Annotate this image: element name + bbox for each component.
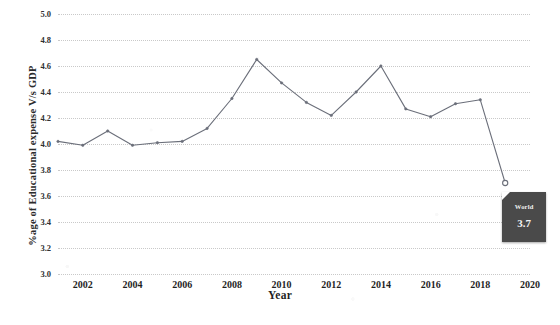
data-point[interactable]: [355, 91, 357, 93]
data-point[interactable]: [107, 130, 109, 132]
data-point[interactable]: [57, 140, 59, 142]
data-point[interactable]: [405, 108, 407, 110]
plot-area: 3.03.23.43.63.84.04.24.44.64.85.0 200220…: [58, 14, 530, 274]
y-tick-label: 4.4: [40, 87, 51, 97]
data-point[interactable]: [181, 140, 183, 142]
y-tick-label: 4.8: [40, 35, 51, 45]
data-point[interactable]: [131, 144, 133, 146]
x-tick-label: 2004: [123, 279, 143, 290]
y-tick-label: 3.0: [40, 269, 51, 279]
x-tick-label: 2012: [321, 279, 341, 290]
data-point[interactable]: [156, 142, 158, 144]
y-tick-label: 4.6: [40, 61, 51, 71]
data-label-callout[interactable]: World 3.7: [502, 192, 546, 242]
data-point[interactable]: [256, 58, 258, 60]
x-tick-label: 2006: [172, 279, 192, 290]
x-tick-label: 2014: [371, 279, 391, 290]
y-tick-label: 3.8: [40, 165, 51, 175]
y-tick-label: 4.2: [40, 113, 51, 123]
data-point[interactable]: [479, 99, 481, 101]
data-point[interactable]: [454, 103, 456, 105]
data-point[interactable]: [82, 144, 84, 146]
y-axis-title: %age of Educational expense V/s GDP: [27, 31, 38, 281]
y-tick-label: 4.0: [40, 139, 51, 149]
y-tick-label: 5.0: [40, 9, 51, 19]
data-point[interactable]: [429, 116, 431, 118]
x-tick-label: 2016: [421, 279, 441, 290]
x-tick-label: 2018: [470, 279, 490, 290]
data-point[interactable]: [305, 101, 307, 103]
chart-canvas: %age of Educational expense V/s GDP Year…: [0, 0, 560, 325]
line-series-world: [58, 14, 530, 274]
x-axis-title: Year: [0, 289, 560, 301]
x-tick-label: 2020: [520, 279, 540, 290]
x-tick-label: 2010: [272, 279, 292, 290]
y-tick-label: 3.4: [40, 217, 51, 227]
callout-value: 3.7: [502, 210, 546, 229]
data-point[interactable]: [206, 127, 208, 129]
data-point[interactable]: [503, 180, 508, 185]
callout-series-name: World: [502, 192, 546, 210]
data-point[interactable]: [231, 97, 233, 99]
gridline: [58, 274, 530, 275]
data-point[interactable]: [380, 65, 382, 67]
y-tick-label: 3.6: [40, 191, 51, 201]
x-tick-label: 2002: [73, 279, 93, 290]
data-point[interactable]: [330, 114, 332, 116]
data-point[interactable]: [280, 82, 282, 84]
x-tick-label: 2008: [222, 279, 242, 290]
y-tick-label: 3.2: [40, 243, 51, 253]
